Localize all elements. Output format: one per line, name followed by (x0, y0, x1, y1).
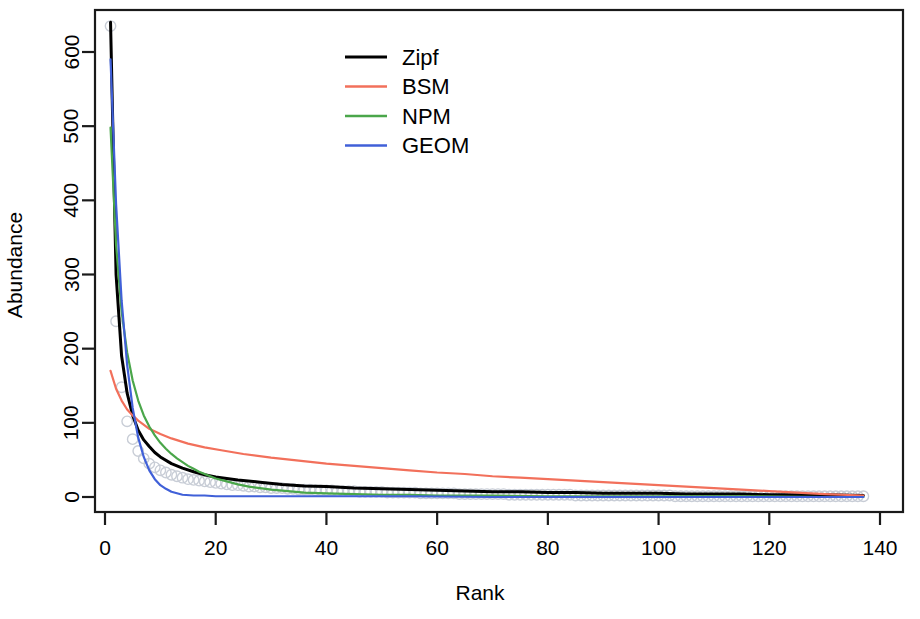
x-axis-ticks (105, 512, 880, 525)
x-tick-label: 60 (425, 536, 448, 559)
rank-abundance-chart: 020406080100120140 0100200300400500600 Z… (0, 0, 920, 619)
y-tick-label: 0 (60, 491, 83, 503)
x-axis-tick-labels: 020406080100120140 (99, 536, 897, 559)
y-tick-label: 500 (60, 109, 83, 144)
plot-border (95, 10, 903, 512)
y-tick-label: 600 (60, 34, 83, 69)
legend-label-bsm: BSM (402, 74, 450, 99)
y-tick-label: 100 (60, 405, 83, 440)
x-tick-label: 140 (862, 536, 897, 559)
observed-point (127, 434, 137, 444)
y-axis-tick-labels: 0100200300400500600 (60, 34, 83, 502)
plot-frame (95, 10, 903, 512)
series-line-zipf (111, 22, 864, 495)
y-tick-label: 300 (60, 257, 83, 292)
chart-canvas: 020406080100120140 0100200300400500600 Z… (0, 0, 920, 619)
model-curves (111, 22, 864, 497)
series-line-npm (111, 128, 864, 497)
x-tick-label: 120 (752, 536, 787, 559)
chart-legend: ZipfBSMNPMGEOM (345, 45, 469, 159)
y-tick-label: 200 (60, 331, 83, 366)
y-axis-ticks (82, 52, 95, 497)
observed-point (122, 416, 132, 426)
observed-data-points (105, 21, 868, 502)
series-line-geom (111, 59, 864, 497)
y-axis-title: Abundance (3, 212, 26, 318)
legend-label-geom: GEOM (402, 133, 469, 158)
x-tick-label: 20 (204, 536, 227, 559)
y-tick-label: 400 (60, 183, 83, 218)
x-axis-title: Rank (455, 581, 505, 604)
x-tick-label: 80 (536, 536, 559, 559)
x-tick-label: 0 (99, 536, 111, 559)
legend-label-zipf: Zipf (402, 45, 440, 70)
x-tick-label: 100 (641, 536, 676, 559)
legend-label-npm: NPM (402, 104, 451, 129)
x-tick-label: 40 (315, 536, 338, 559)
